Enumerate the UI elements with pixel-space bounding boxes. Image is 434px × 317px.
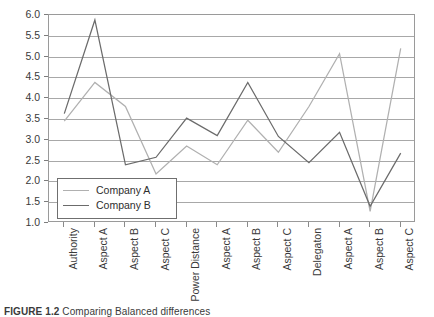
figure-caption: FIGURE 1.2 Comparing Balanced difference…: [4, 306, 210, 317]
x-axis-label: Power Distance: [190, 228, 201, 302]
y-tick-label: 1.5: [25, 196, 40, 206]
y-tick-label: 2.5: [25, 155, 40, 165]
x-axis-label: Aspect A: [221, 228, 232, 269]
legend-label-company-a: Company A: [96, 185, 150, 196]
y-tick-label: 5.0: [25, 51, 40, 61]
y-tick-label: 4.5: [25, 71, 40, 81]
legend-item-company-b: Company B: [63, 198, 171, 213]
y-tick-label: 6.0: [25, 9, 40, 19]
y-axis: 6.05.55.04.54.03.53.02.52.01.51.0: [0, 0, 48, 236]
x-axis-label: Aspect C: [160, 228, 171, 271]
x-axis-label: Aspect A: [98, 228, 109, 269]
y-tick-label: 2.0: [25, 175, 40, 185]
y-tick-label: 3.5: [25, 113, 40, 123]
x-axis-label: Authority: [68, 228, 79, 269]
legend-item-company-a: Company A: [63, 183, 171, 198]
x-axis-label: Delegaton: [312, 228, 323, 276]
x-axis-label: Aspect C: [282, 228, 293, 271]
x-axis-label: Aspect B: [251, 228, 262, 270]
legend-swatch-company-a: [63, 190, 89, 191]
legend-swatch-company-b: [63, 205, 89, 206]
x-axis-label: Aspect B: [374, 228, 385, 270]
legend-label-company-b: Company B: [96, 200, 151, 211]
y-tick-label: 5.5: [25, 30, 40, 40]
x-axis-labels: AuthorityAspect AAspect BAspect CPower D…: [0, 228, 434, 300]
y-tick-label: 3.0: [25, 134, 40, 144]
plot-area: Company A Company B: [48, 14, 415, 222]
x-axis-label: Aspect A: [343, 228, 354, 269]
legend: Company A Company B: [57, 178, 177, 219]
y-tick-label: 4.0: [25, 92, 40, 102]
y-tick-label: 1.0: [25, 217, 40, 227]
y-tick-mark: [44, 222, 48, 223]
x-axis-label: Aspect C: [404, 228, 415, 271]
x-axis-label: Aspect B: [129, 228, 140, 270]
caption-label: FIGURE 1.2: [4, 306, 59, 317]
caption-text: Comparing Balanced differences: [62, 306, 210, 317]
